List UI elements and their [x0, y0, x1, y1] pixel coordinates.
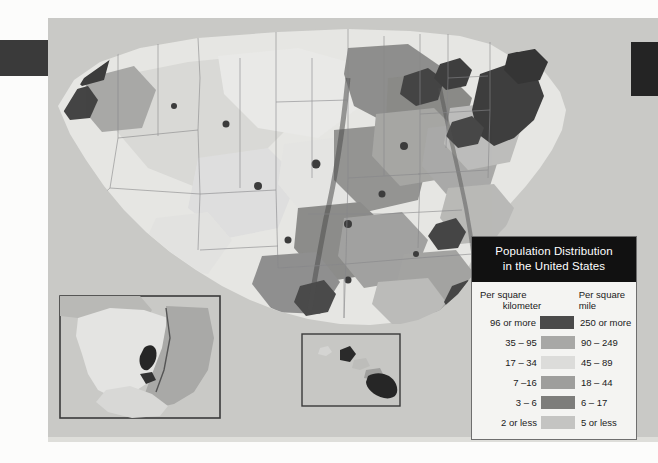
metro-dot — [344, 220, 352, 228]
legend-value-per-square-kilometer: 2 or less — [480, 417, 541, 428]
legend-header-per-square-kilometer: Per square kilometer — [480, 289, 541, 311]
legend-value-per-square-kilometer: 3 – 6 — [480, 397, 541, 408]
legend-header-per-square-mile: Per square mile — [579, 289, 628, 311]
metro-dot — [254, 182, 262, 190]
hawaii-inset — [302, 334, 400, 406]
legend-value-per-square-mile: 45 – 89 — [575, 357, 628, 368]
legend-value-per-square-kilometer: 96 or more — [480, 317, 540, 328]
legend-color-swatch — [541, 376, 575, 389]
legend-color-swatch — [541, 416, 575, 429]
legend-color-swatch — [541, 396, 575, 409]
legend-header-right-line1: Per square — [579, 289, 625, 300]
legend-row: 35 – 9590 – 249 — [480, 333, 628, 351]
metro-dot — [413, 251, 419, 257]
metro-dot — [171, 103, 177, 109]
legend-value-per-square-mile: 5 or less — [575, 417, 628, 428]
scan-artifact-left-bar — [0, 40, 48, 76]
legend-color-swatch — [540, 316, 574, 329]
legend-row: 17 – 3445 – 89 — [480, 353, 628, 371]
legend-title-line1: Population Distribution — [495, 245, 612, 257]
legend-row: 7 –1618 – 44 — [480, 373, 628, 391]
legend-color-swatch — [541, 336, 575, 349]
legend-value-per-square-kilometer: 7 –16 — [480, 377, 541, 388]
legend-value-per-square-mile: 6 – 17 — [575, 397, 628, 408]
scan-artifact-right-block — [631, 42, 658, 96]
legend-value-per-square-mile: 90 – 249 — [575, 337, 628, 348]
legend-row: 2 or less5 or less — [480, 413, 628, 431]
legend-color-swatch — [541, 356, 575, 369]
legend-header-right-line2: mile — [579, 300, 596, 311]
legend-header-left-line1: Per square — [480, 289, 526, 300]
metro-dot — [379, 191, 386, 198]
metro-dot — [400, 142, 408, 150]
legend-value-per-square-kilometer: 35 – 95 — [480, 337, 541, 348]
metro-dot — [223, 121, 230, 128]
alaska-inset — [60, 296, 220, 418]
legend-row: 96 or more250 or more — [480, 313, 628, 331]
legend-body: Per square kilometer Per square mile 96 … — [472, 282, 636, 439]
legend-rows: 96 or more250 or more35 – 9590 – 24917 –… — [480, 313, 628, 431]
legend-header-left-line2: kilometer — [480, 300, 541, 311]
legend-title-line2: in the United States — [478, 259, 630, 274]
legend-row: 3 – 66 – 17 — [480, 393, 628, 411]
metro-dot — [312, 160, 321, 169]
legend-column-headers: Per square kilometer Per square mile — [480, 289, 628, 311]
legend-title: Population Distribution in the United St… — [472, 237, 636, 282]
legend-value-per-square-mile: 250 or more — [574, 317, 628, 328]
legend-value-per-square-kilometer: 17 – 34 — [480, 357, 541, 368]
metro-dot — [285, 237, 292, 244]
map-legend: Population Distribution in the United St… — [471, 236, 637, 440]
page-root: Population Distribution in the United St… — [0, 0, 658, 463]
legend-value-per-square-mile: 18 – 44 — [575, 377, 628, 388]
